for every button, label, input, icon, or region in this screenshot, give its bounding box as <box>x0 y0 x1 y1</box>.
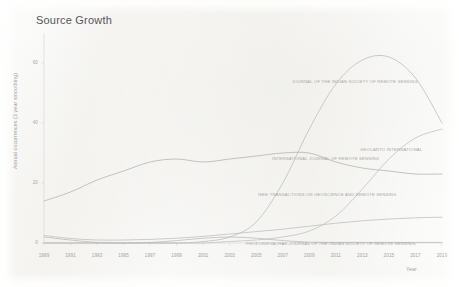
series-label: JOURNAL OF THE INDIAN SOCIETY OF REMOTE … <box>292 79 418 84</box>
series-label: PHOTONIRVACHAK-JOURNAL OF THE INDIAN SOC… <box>246 241 415 246</box>
tick-marks <box>42 63 443 246</box>
series-label: IEEE TRANSACTIONS ON GEOSCIENCE AND REMO… <box>258 192 396 197</box>
chart-page: Source Growth Annual occurrences (3 year… <box>0 0 459 287</box>
series-line <box>44 217 442 240</box>
axis-lines <box>44 33 442 243</box>
series-label: GEOCARTO INTERNATIONAL <box>360 147 422 152</box>
series-label: INTERNATIONAL JOURNAL OF REMOTE SENSING <box>272 156 379 161</box>
